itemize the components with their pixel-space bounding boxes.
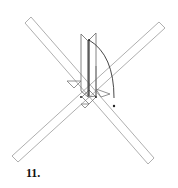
pivot-dot — [95, 96, 97, 98]
pivot-dot — [88, 39, 90, 41]
pivot-dot — [80, 96, 82, 98]
arrow-end-dot — [113, 105, 115, 107]
vertical-flap — [81, 33, 96, 97]
fold-arrow-icon — [89, 40, 114, 98]
origami-diagram — [0, 0, 178, 188]
step-number: 11. — [26, 166, 40, 181]
